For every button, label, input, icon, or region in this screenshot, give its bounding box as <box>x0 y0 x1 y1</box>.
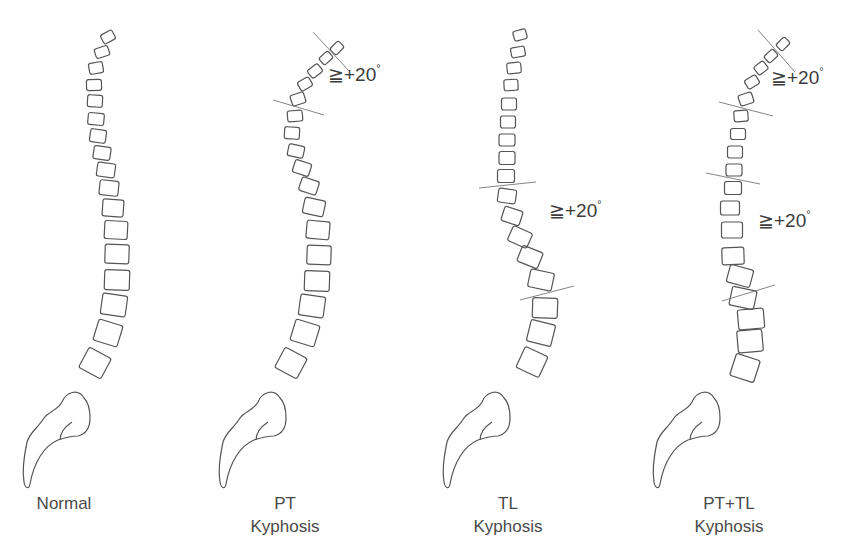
vertebra <box>738 92 755 107</box>
vertebra <box>737 329 764 353</box>
vertebra <box>96 162 116 178</box>
vertebra <box>501 116 516 128</box>
vertebra <box>307 245 332 265</box>
vertebra <box>731 129 746 140</box>
vertebra <box>722 222 743 238</box>
spine-normal <box>23 30 130 488</box>
vertebra <box>725 182 742 195</box>
vertebra <box>94 45 110 59</box>
vertebra <box>297 76 313 91</box>
vertebra <box>497 188 517 204</box>
vertebra <box>502 98 517 110</box>
cobb-angle-line <box>273 100 324 115</box>
label-pt-kyphosis: PT Kyphosis <box>251 492 320 538</box>
vertebra <box>86 79 101 91</box>
vertebra <box>275 347 308 379</box>
label-normal-line1: Normal <box>37 492 92 515</box>
vertebra <box>102 199 124 217</box>
vertebra <box>100 293 128 317</box>
label-normal: Normal <box>37 492 92 515</box>
angle-label: ≧+20° <box>758 208 811 232</box>
vertebra <box>307 63 323 79</box>
sacrum-coccyx <box>443 392 510 487</box>
spine-kyphosis-diagram: Normal PT Kyphosis TL Kyphosis PT+TL Kyp… <box>0 0 861 554</box>
vertebra <box>776 37 791 52</box>
vertebra <box>730 353 761 383</box>
vertebra <box>527 269 554 292</box>
label-pttl-line2: Kyphosis <box>695 515 764 538</box>
vertebra <box>87 95 103 108</box>
cobb-angle-line <box>719 102 773 116</box>
vertebra <box>744 74 760 89</box>
vertebra <box>302 197 326 217</box>
vertebra <box>753 60 769 75</box>
vertebra <box>510 46 526 58</box>
label-tl-kyphosis: TL Kyphosis <box>474 492 543 538</box>
vertebra <box>517 245 544 269</box>
sacrum-coccyx <box>219 392 286 487</box>
vertebra <box>93 319 123 347</box>
vertebra <box>499 152 515 165</box>
vertebra <box>330 41 345 56</box>
vertebra <box>104 270 130 291</box>
vertebra <box>506 62 521 74</box>
vertebra <box>99 180 119 197</box>
vertebra <box>89 128 107 143</box>
vertebra <box>100 30 116 45</box>
vertebra <box>726 264 754 288</box>
spine-diagrams-canvas <box>0 0 861 554</box>
vertebra <box>79 347 112 379</box>
label-tl-line2: Kyphosis <box>474 515 543 538</box>
vertebra <box>532 298 558 319</box>
spine-pt-tl-kyphosis <box>653 30 795 488</box>
vertebra <box>104 220 128 239</box>
spine-pt-kyphosis <box>219 32 350 488</box>
vertebra <box>504 79 519 91</box>
angle-label: ≧+20° <box>549 198 602 222</box>
vertebra <box>516 346 548 377</box>
vertebra <box>306 220 330 240</box>
vertebra <box>726 164 742 176</box>
label-pt-line2: Kyphosis <box>251 515 320 538</box>
spine-tl-kyphosis <box>443 28 574 487</box>
vertebra <box>298 177 319 196</box>
vertebra <box>93 145 112 160</box>
vertebra <box>298 294 326 318</box>
vertebra <box>499 134 515 146</box>
label-pt-line1: PT <box>251 492 320 515</box>
vertebra <box>292 159 312 177</box>
angle-label: ≧+20° <box>771 65 824 89</box>
vertebra <box>734 110 749 122</box>
vertebra <box>287 110 303 122</box>
vertebra <box>105 244 130 264</box>
vertebra <box>728 146 743 158</box>
vertebra <box>501 206 524 226</box>
label-pttl-line1: PT+TL <box>695 492 764 515</box>
vertebra <box>721 201 740 215</box>
label-tl-line1: TL <box>474 492 543 515</box>
vertebra <box>512 28 527 41</box>
sacrum-coccyx <box>653 392 720 487</box>
label-pt-tl-kyphosis: PT+TL Kyphosis <box>695 492 764 538</box>
vertebra <box>304 271 330 292</box>
vertebra <box>498 170 515 183</box>
sacrum-coccyx <box>23 392 90 487</box>
cobb-angle-line <box>706 173 760 184</box>
vertebra <box>526 319 556 346</box>
vertebra <box>722 247 745 265</box>
vertebra <box>290 319 320 347</box>
vertebra <box>284 127 300 140</box>
angle-label: ≧+20° <box>328 62 381 86</box>
vertebra <box>88 61 104 74</box>
vertebra <box>290 92 307 107</box>
vertebra <box>507 225 533 248</box>
vertebra <box>287 143 305 158</box>
vertebra <box>737 308 765 330</box>
vertebra <box>88 112 105 125</box>
